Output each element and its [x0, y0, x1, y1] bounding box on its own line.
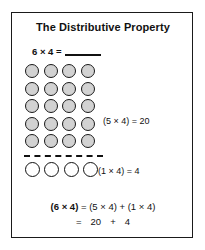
filled-circle: [44, 64, 58, 78]
grid-row: [25, 134, 99, 152]
plus-sign: +: [110, 216, 116, 227]
filled-circle: [81, 99, 95, 113]
summary-second-addend: 4: [125, 216, 130, 227]
filled-circle: [62, 82, 76, 96]
open-circle: [25, 162, 40, 177]
grid-row: [25, 99, 99, 117]
summary-rest: = (5 × 4) + (1 × 4): [78, 201, 155, 212]
summary-lead-term: (6 × 4): [51, 201, 79, 212]
summary-equation-line1: (6 × 4) = (5 × 4) + (1 × 4): [12, 201, 194, 212]
summary-first-addend: 20: [91, 216, 102, 227]
answer-blank[interactable]: [65, 54, 101, 56]
filled-circle: [81, 82, 95, 96]
problem-statement: 6 × 4 =: [32, 46, 101, 57]
page-title: The Distributive Property: [12, 21, 194, 33]
filled-circle: [81, 64, 95, 78]
filled-circle: [25, 134, 39, 148]
open-circle: [44, 162, 59, 177]
filled-circle: [44, 117, 58, 131]
distributive-property-card: The Distributive Property 6 × 4 = (5 × 4…: [11, 12, 193, 238]
filled-circle: [44, 99, 58, 113]
filled-circle: [62, 117, 76, 131]
dashed-separator: [24, 155, 103, 157]
filled-circle: [62, 99, 76, 113]
open-circle: [83, 162, 98, 177]
summary-equation-line2: =20+4: [12, 216, 194, 227]
filled-circle: [25, 64, 39, 78]
open-circle: [64, 162, 79, 177]
problem-expression: 6 × 4 =: [32, 46, 62, 57]
filled-circle-grid: [25, 64, 99, 152]
equals-sign: =: [76, 216, 82, 227]
grid-label: (5 × 4) = 20: [103, 116, 150, 126]
filled-circle: [81, 134, 95, 148]
grid-row: [25, 82, 99, 100]
filled-circle: [81, 117, 95, 131]
filled-circle: [25, 82, 39, 96]
filled-circle: [44, 134, 58, 148]
grid-row: [25, 117, 99, 135]
remainder-row-label: (1 × 4) = 4: [98, 166, 140, 176]
filled-circle: [25, 117, 39, 131]
filled-circle: [25, 99, 39, 113]
filled-circle: [44, 82, 58, 96]
filled-circle: [62, 64, 76, 78]
grid-row: [25, 64, 99, 82]
open-circle-row: [25, 162, 103, 180]
filled-circle: [62, 134, 76, 148]
